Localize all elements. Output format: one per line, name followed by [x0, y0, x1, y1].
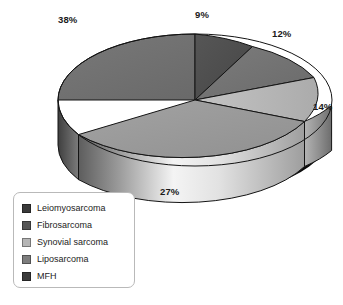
chart-legend: Leiomyosarcoma Fibrosarcoma Synovial sar… [13, 192, 135, 288]
legend-swatch-icon-leiomyosarcoma [22, 204, 31, 213]
pie-chart-figure: 9% 12% 14% 27% 38% Leiomyosarcoma Fibros… [0, 0, 343, 305]
pie-slice-mfh [58, 34, 195, 100]
data-label-mfh: 38% [58, 14, 77, 25]
legend-label-fibrosarcoma: Fibrosarcoma [37, 220, 92, 230]
legend-item-liposarcoma[interactable]: Liposarcoma [22, 251, 130, 267]
legend-item-list: Leiomyosarcoma Fibrosarcoma Synovial sar… [22, 200, 130, 285]
legend-swatch-icon-synovial-sarcoma [22, 238, 31, 247]
legend-label-synovial-sarcoma: Synovial sarcoma [37, 237, 108, 247]
legend-item-mfh[interactable]: MFH [22, 268, 130, 284]
legend-label-liposarcoma: Liposarcoma [37, 254, 89, 264]
legend-label-mfh: MFH [37, 271, 57, 281]
data-label-liposarcoma: 27% [160, 186, 179, 197]
legend-swatch-icon-fibrosarcoma [22, 221, 31, 230]
pie-slice-wall-mfh [58, 100, 79, 180]
data-label-synovial-sarcoma: 14% [313, 101, 332, 112]
legend-label-leiomyosarcoma: Leiomyosarcoma [37, 203, 106, 213]
legend-item-leiomyosarcoma[interactable]: Leiomyosarcoma [22, 200, 130, 216]
legend-swatch-icon-mfh [22, 272, 31, 281]
data-label-fibrosarcoma: 12% [272, 28, 291, 39]
data-label-leiomyosarcoma: 9% [195, 9, 209, 20]
legend-item-synovial-sarcoma[interactable]: Synovial sarcoma [22, 234, 130, 250]
legend-item-fibrosarcoma[interactable]: Fibrosarcoma [22, 217, 130, 233]
legend-swatch-icon-liposarcoma [22, 255, 31, 264]
